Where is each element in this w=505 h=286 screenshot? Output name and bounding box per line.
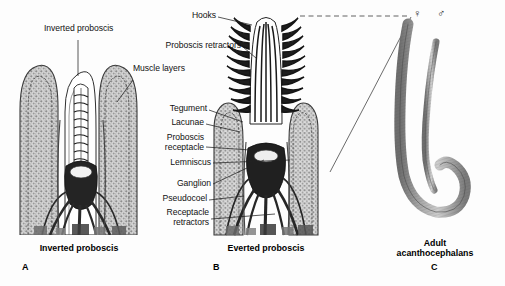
panel-a-caption: Inverted proboscis: [18, 243, 140, 253]
label-receptacle-retractors: Receptacle retractors: [133, 208, 209, 227]
label-proboscis-retractors: Proboscis retractors: [113, 41, 241, 51]
male-symbol-icon: ♂: [437, 8, 445, 19]
label-receptacle-retractors-line2: retractors: [173, 217, 209, 227]
label-hooks: Hooks: [148, 11, 216, 21]
label-proboscis-receptacle-line1: Proboscis: [167, 132, 204, 142]
label-pseudocoel: Pseudocoel: [131, 194, 207, 204]
figure-acanthocephalan: Inverted proboscis Muscle layers Hooks P…: [0, 0, 505, 286]
panel-b-letter: B: [213, 262, 220, 272]
panel-c-caption: Adult acanthocephalans: [383, 238, 487, 258]
label-tegument: Tegument: [137, 104, 207, 114]
panel-c-artwork: [400, 24, 465, 212]
connector-line-lower: [330, 92, 372, 172]
label-ganglion: Ganglion: [141, 179, 211, 189]
female-symbol-icon: ♀: [413, 8, 421, 19]
panel-b-caption: Everted proboscis: [205, 243, 327, 253]
label-proboscis-receptacle: Proboscis receptacle: [130, 133, 204, 152]
panel-a-letter: A: [22, 262, 29, 272]
label-lacunae: Lacunae: [137, 118, 204, 128]
label-muscle-layers: Muscle layers: [133, 64, 185, 74]
panel-a-artwork: [20, 65, 137, 235]
panel-c-caption-line1: Adult: [424, 238, 446, 248]
panel-c-caption-line2: acanthocephalans: [397, 248, 474, 258]
panel-c-letter: C: [431, 262, 438, 272]
label-receptacle-retractors-line1: Receptacle: [167, 207, 210, 217]
label-proboscis-receptacle-line2: receptacle: [165, 142, 204, 152]
label-lemniscus: Lemniscus: [136, 158, 211, 168]
label-inverted-proboscis: Inverted proboscis: [44, 24, 113, 34]
